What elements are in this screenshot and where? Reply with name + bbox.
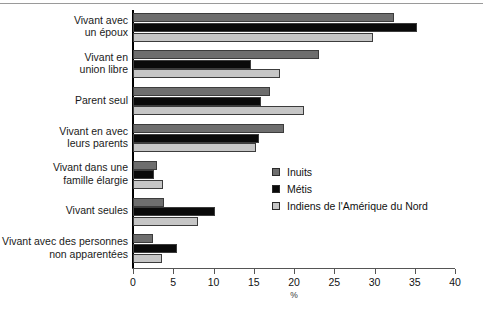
legend: InuitsMétisIndiens de l'Amérique du Nord (272, 163, 428, 214)
x-tick-label-30: 30 (355, 276, 395, 288)
category-label: Vivant avec des personnesnon apparentées (0, 235, 128, 260)
category-label: Vivant en avecleurs parents (0, 125, 128, 150)
bar (133, 124, 284, 133)
bar (133, 60, 251, 69)
x-tick-label-20: 20 (274, 276, 314, 288)
x-tick-40 (455, 269, 456, 274)
x-tick-20 (294, 269, 295, 274)
x-tick-5 (173, 269, 174, 274)
bar (133, 33, 373, 42)
legend-swatch-icon (272, 168, 280, 176)
x-tick-label-15: 15 (234, 276, 274, 288)
category-label: Parent seul (0, 94, 128, 107)
x-tick-label-10: 10 (194, 276, 234, 288)
category-label-line: un époux (0, 26, 128, 39)
x-tick-label-0: 0 (113, 276, 153, 288)
x-tick-label-5: 5 (153, 276, 193, 288)
bar (133, 87, 270, 96)
x-tick-30 (375, 269, 376, 274)
bar (133, 207, 215, 216)
category-label-line: Vivant dans une (0, 161, 128, 174)
category-label-line: union libre (0, 63, 128, 76)
bar (133, 143, 256, 152)
bar (133, 161, 157, 170)
bar (133, 50, 319, 59)
x-tick-label-40: 40 (435, 276, 475, 288)
bar (133, 134, 259, 143)
bar (133, 69, 280, 78)
legend-item-indiens-de-l-am-rique-du-nord[interactable]: Indiens de l'Amérique du Nord (272, 197, 428, 214)
legend-label: Métis (287, 183, 312, 195)
top-divider (0, 3, 483, 4)
bar (133, 180, 163, 189)
legend-swatch-icon (272, 202, 280, 210)
legend-label: Inuits (287, 166, 312, 178)
category-label-line: Parent seul (0, 94, 128, 107)
chart-figure: Vivant avecun épouxVivant enunion libreP… (0, 0, 483, 315)
category-label-line: famille élargie (0, 174, 128, 187)
category-label-line: Vivant seules (0, 204, 128, 217)
bar (133, 106, 304, 115)
category-label: Vivant seules (0, 204, 128, 217)
legend-swatch-icon (272, 185, 280, 193)
category-label-column: Vivant avecun épouxVivant enunion libreP… (0, 10, 128, 268)
figure-footnote (10, 308, 480, 315)
category-label-line: Vivant avec (0, 14, 128, 27)
category-label-line: leurs parents (0, 137, 128, 150)
x-tick-35 (415, 269, 416, 274)
category-label: Vivant avecun époux (0, 14, 128, 39)
bar (133, 244, 177, 253)
category-label-line: Vivant en (0, 51, 128, 64)
category-label: Vivant dans unefamille élargie (0, 161, 128, 186)
bar (133, 254, 162, 263)
category-label: Vivant enunion libre (0, 51, 128, 76)
bar (133, 234, 153, 243)
category-label-line: Vivant en avec (0, 125, 128, 138)
bar (133, 198, 164, 207)
x-tick-25 (334, 269, 335, 274)
bar (133, 13, 394, 22)
x-tick-10 (214, 269, 215, 274)
bar (133, 170, 154, 179)
legend-label: Indiens de l'Amérique du Nord (287, 200, 428, 212)
x-tick-label-25: 25 (314, 276, 354, 288)
plot-area: 0510152025303540% (133, 10, 455, 268)
x-tick-15 (254, 269, 255, 274)
bar (133, 97, 261, 106)
category-label-line: Vivant avec des personnes (0, 235, 128, 248)
x-tick-0 (133, 269, 134, 274)
bar (133, 217, 198, 226)
legend-item-m-tis[interactable]: Métis (272, 180, 428, 197)
x-tick-label-35: 35 (395, 276, 435, 288)
x-axis-title: % (274, 290, 314, 300)
bar (133, 23, 417, 32)
legend-item-inuits[interactable]: Inuits (272, 163, 428, 180)
category-label-line: non apparentées (0, 248, 128, 261)
